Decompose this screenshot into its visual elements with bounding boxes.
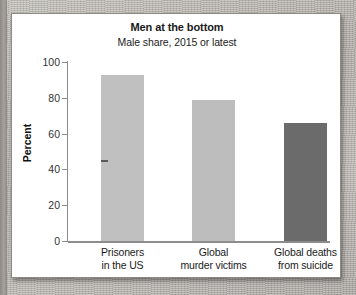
x-category-label-2: Global deathsfrom suicide — [251, 246, 356, 272]
chart-title: Men at the bottom — [12, 21, 342, 33]
chart-card: Men at the bottom Male share, 2015 or la… — [11, 13, 341, 278]
bar-2 — [284, 123, 327, 241]
y-tick-label: 20 — [30, 199, 60, 211]
y-tick-mark — [62, 98, 67, 99]
bar-1 — [192, 100, 235, 241]
y-tick-label: 80 — [30, 92, 60, 104]
bar-0 — [101, 75, 144, 241]
y-tick-mark — [62, 169, 67, 170]
y-tick-label: 100 — [30, 56, 60, 68]
y-tick-mark — [62, 62, 67, 63]
y-tick-mark — [62, 241, 67, 242]
y-tick-label: 60 — [30, 128, 60, 140]
y-tick-mark — [62, 134, 67, 135]
scan-artifact-mark — [101, 160, 108, 162]
y-tick-label: 40 — [30, 163, 60, 175]
plot-area — [68, 62, 330, 241]
chart-subtitle: Male share, 2015 or latest — [12, 36, 342, 48]
page-left-gutter — [0, 0, 7, 295]
x-axis-line — [68, 241, 330, 243]
x-category-label-line: Global deaths — [251, 246, 356, 259]
y-tick-mark — [62, 205, 67, 206]
x-category-label-line: from suicide — [251, 259, 356, 272]
y-tick-label: 0 — [30, 235, 60, 247]
